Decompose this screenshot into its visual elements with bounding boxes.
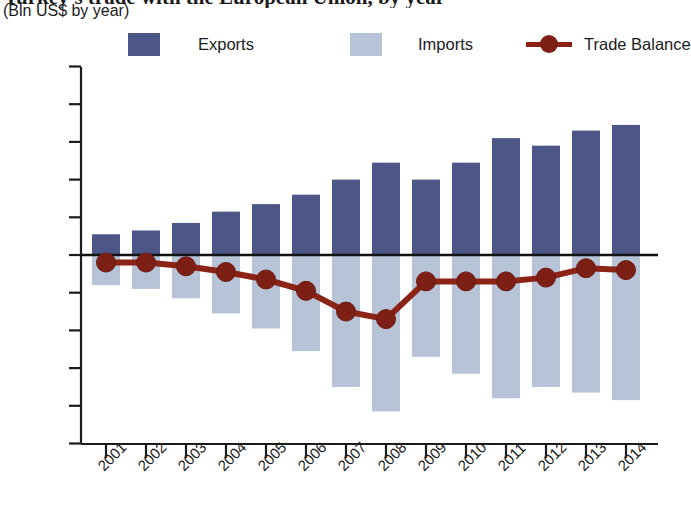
trade-balance-point [497,272,516,291]
imports-bar-group [92,255,640,411]
trade-balance-point [617,261,636,280]
bar-exports [132,230,160,255]
bar-exports [292,195,320,255]
bar-imports [252,255,280,329]
bar-exports [612,125,640,255]
trade-balance-point [97,253,116,272]
bar-imports [292,255,320,351]
bar-imports [412,255,440,357]
bar-exports [372,163,400,255]
trade-balance-point [537,268,556,287]
y-axis-tick-labels: 100806040200−20−40−60−80−100 [0,0,62,511]
trade-balance-point [297,281,316,300]
bar-exports [252,204,280,255]
bar-exports [172,223,200,255]
bar-exports [332,180,360,255]
bar-exports [412,180,440,255]
trade-balance-point [217,262,236,281]
trade-balance-point [377,310,396,329]
bar-exports [92,234,120,255]
bar-exports [532,146,560,255]
trade-balance-point [337,302,356,321]
bar-exports [212,212,240,255]
trade-balance-point [177,257,196,276]
trade-balance-point [137,253,156,272]
bar-exports [572,131,600,255]
trade-balance-point [257,270,276,289]
exports-bar-group [92,125,640,255]
bar-exports [492,138,520,255]
bar-imports [372,255,400,411]
bar-exports [452,163,480,255]
trade-balance-point [417,272,436,291]
trade-balance-point [577,259,596,278]
trade-balance-point [457,272,476,291]
